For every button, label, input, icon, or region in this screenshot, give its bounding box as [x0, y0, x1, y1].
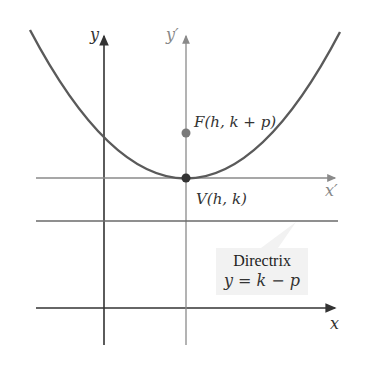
- parabola-diagram: y y′ x x′ F(h, k + p) V(h, k) Directrix …: [0, 0, 371, 368]
- directrix-title: Directrix: [233, 252, 291, 269]
- directrix-equation: y = k − p: [223, 271, 300, 290]
- focus-label: F(h, k + p): [193, 113, 276, 131]
- x-axis-label: x: [330, 314, 339, 333]
- y-axis-label: y: [89, 25, 100, 44]
- x-prime-axis-label: x′: [325, 181, 338, 200]
- y-prime-axis-label: y′: [165, 25, 179, 44]
- focus-point: [182, 129, 191, 138]
- vertex-point: [182, 174, 191, 183]
- vertex-label: V(h, k): [196, 190, 247, 208]
- parabola-curve: [30, 30, 340, 179]
- directrix-callout: Directrix y = k − p: [216, 222, 308, 295]
